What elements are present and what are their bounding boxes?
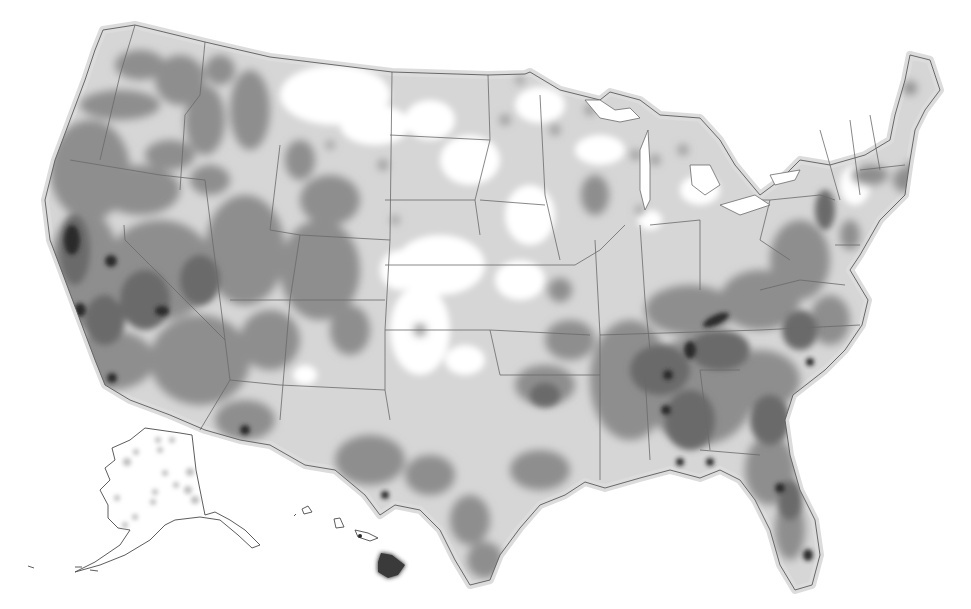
map-canvas [0,0,971,609]
hawaii-inset [294,506,405,578]
alaska-inset [28,428,260,572]
us-density-map [0,0,971,609]
